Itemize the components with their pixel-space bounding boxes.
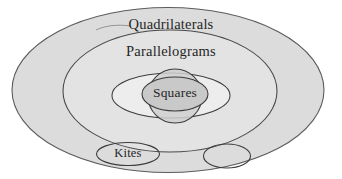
label-quadrilaterals: Quadrilaterals (0, 17, 342, 32)
label-kites: Kites (97, 147, 159, 160)
euler-diagram: Quadrilaterals Parallelograms Squares Ki… (0, 0, 342, 179)
label-squares: Squares (0, 86, 342, 100)
label-parallelograms: Parallelograms (0, 44, 342, 59)
